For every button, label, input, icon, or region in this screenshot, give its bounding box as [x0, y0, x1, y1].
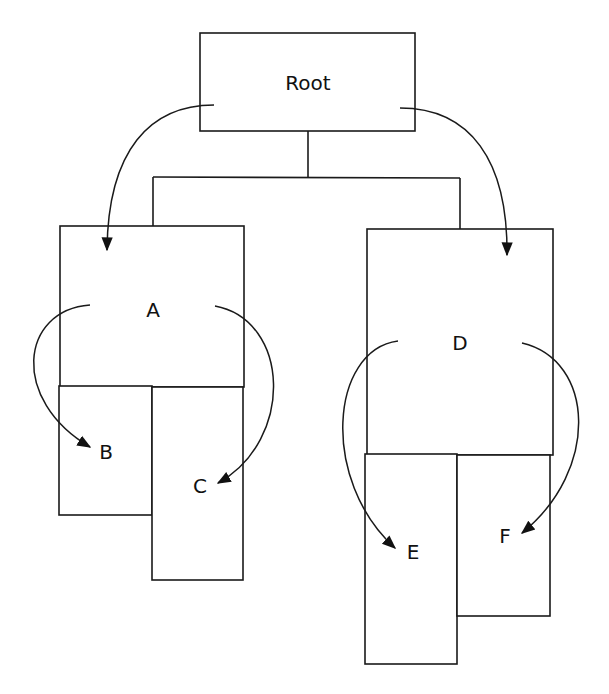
node-e: E: [365, 454, 457, 664]
node-d-label: D: [452, 331, 467, 355]
diagram-svg: Root A B C D E F: [0, 0, 609, 694]
node-b-label: B: [99, 440, 113, 464]
tree-connectors: [153, 130, 460, 230]
node-f: F: [457, 455, 550, 616]
branch-horizontal-line: [153, 177, 460, 178]
node-a-label: A: [146, 298, 160, 322]
node-root: Root: [200, 33, 415, 131]
node-e-label: E: [407, 540, 420, 564]
node-f-label: F: [499, 524, 511, 548]
node-c: C: [152, 387, 243, 580]
node-b: B: [59, 386, 152, 515]
node-c-label: C: [193, 474, 207, 498]
tree-diagram: Root A B C D E F: [0, 0, 609, 694]
node-root-label: Root: [285, 71, 330, 95]
